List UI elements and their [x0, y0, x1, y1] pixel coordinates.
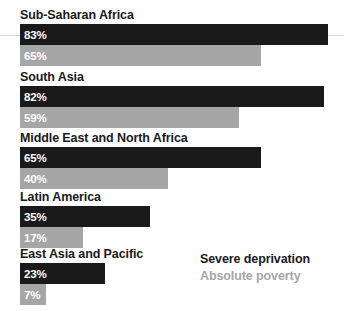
category-label: Middle East and North Africa	[20, 131, 188, 145]
rule-left	[0, 35, 20, 36]
category-label: Sub-Saharan Africa	[20, 8, 134, 22]
bar-value-label: 23%	[20, 268, 47, 280]
chart-legend: Severe deprivation Absolute poverty	[200, 251, 310, 285]
bar-value-label: 83%	[20, 29, 47, 41]
bar-severe-deprivation: 23%	[20, 263, 105, 284]
bar-absolute-poverty: 40%	[20, 168, 168, 189]
bar-absolute-poverty: 17%	[20, 227, 83, 248]
bar-absolute-poverty: 59%	[20, 107, 239, 128]
bar-severe-deprivation: 65%	[20, 147, 261, 168]
bar-severe-deprivation: 83%	[20, 24, 328, 45]
legend-item-absolute-poverty: Absolute poverty	[200, 268, 310, 285]
bar-severe-deprivation: 35%	[20, 206, 150, 227]
bar-value-label: 82%	[20, 91, 47, 103]
bar-value-label: 59%	[20, 112, 47, 124]
bar-value-label: 40%	[20, 173, 47, 185]
bar-absolute-poverty: 7%	[20, 284, 46, 305]
bar-value-label: 35%	[20, 211, 47, 223]
bar-value-label: 65%	[20, 50, 47, 62]
legend-item-severe-deprivation: Severe deprivation	[200, 251, 310, 268]
bar-severe-deprivation: 82%	[20, 86, 324, 107]
rule-right	[328, 35, 344, 36]
bar-value-label: 17%	[20, 232, 47, 244]
bar-value-label: 7%	[20, 289, 40, 301]
category-label: Latin America	[20, 190, 101, 204]
category-label: East Asia and Pacific	[20, 247, 143, 261]
category-label: South Asia	[20, 70, 84, 84]
bar-value-label: 65%	[20, 152, 47, 164]
bar-absolute-poverty: 65%	[20, 45, 261, 66]
